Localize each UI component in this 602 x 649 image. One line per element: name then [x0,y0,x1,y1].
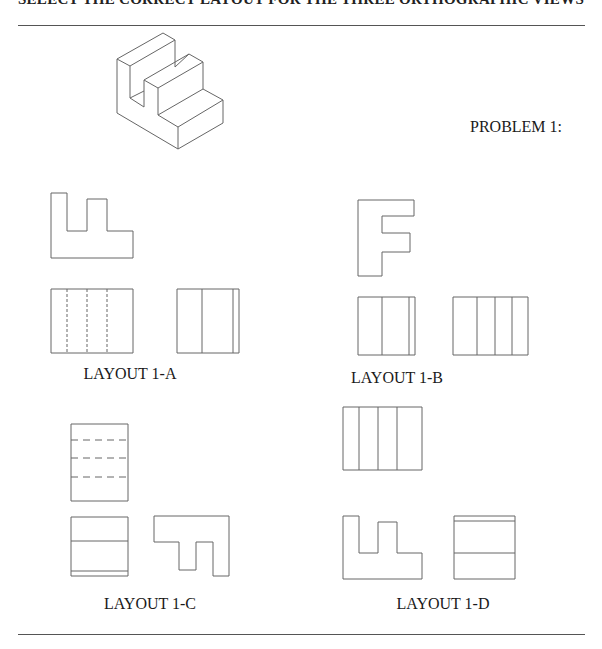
problem-drawing [0,0,602,649]
layout-1d-drawing[interactable] [343,407,515,579]
layout-1c-drawing[interactable] [71,424,229,576]
layout-1d-label[interactable]: LAYOUT 1-D [397,595,490,613]
layout-1d-top-view [343,407,422,470]
layout-1b-label[interactable]: LAYOUT 1-B [351,369,443,387]
layout-1a-label[interactable]: LAYOUT 1-A [84,365,177,383]
layout-1d-side-view [454,516,515,579]
layout-1c-side-view [154,516,229,576]
layout-1c-label[interactable]: LAYOUT 1-C [104,595,196,613]
layout-1a-front-view [51,193,133,258]
layout-1a-drawing[interactable] [51,193,239,353]
bottom-divider [18,634,585,635]
layout-1a-top-view [51,289,133,353]
layout-1c-front-view [71,517,128,576]
problem-label: PROBLEM 1: [470,118,562,136]
layout-1b-f-view [358,200,414,276]
layout-1a-side-view [177,289,239,353]
layout-1b-front-view [358,297,415,355]
isometric-view [117,33,223,149]
layout-1d-front-view [343,516,422,579]
layout-1c-top-view [71,424,128,501]
layout-1b-drawing[interactable] [358,200,528,355]
layout-1b-side-view [453,297,528,355]
